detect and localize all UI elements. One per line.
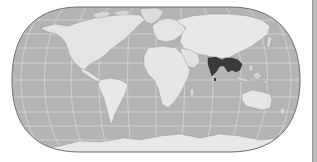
sri-lanka: [214, 78, 216, 81]
world-map-svg: [0, 0, 317, 162]
world-map: [0, 0, 317, 162]
right-edge-bar: [312, 0, 317, 162]
